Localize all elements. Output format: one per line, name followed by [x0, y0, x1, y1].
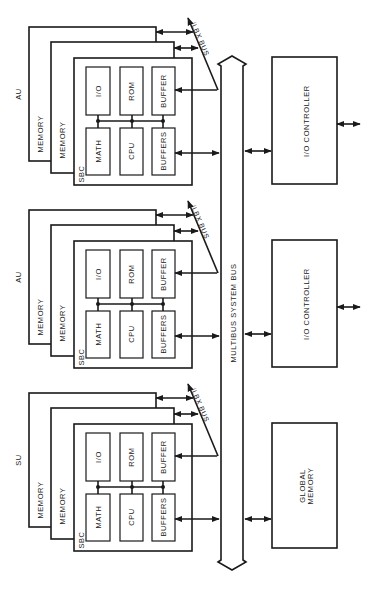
buffers-label: BUFFERS — [159, 131, 168, 170]
memory-label: MEMORY — [36, 298, 45, 335]
memory-label: MEMORY — [36, 481, 45, 518]
buffer-label: BUFFER — [159, 440, 168, 474]
buffer-label: BUFFER — [159, 74, 168, 108]
ilbx-bus-label: iLBX BUS — [190, 387, 210, 423]
buffer-label: BUFFER — [159, 257, 168, 291]
memory-label: MEMORY — [58, 121, 67, 158]
math-label: MATH — [94, 139, 103, 162]
rom-label: ROM — [127, 264, 136, 283]
ilbx-bus-label: iLBX BUS — [190, 21, 210, 57]
unit-au-1: AU MEMORY MEMORY SBC I/O ROM BUFFER MATH… — [14, 18, 360, 185]
buffers-label: BUFFERS — [159, 314, 168, 353]
memory-label: MEMORY — [36, 115, 45, 152]
multibus-block-diagram: MULTIBUS SYSTEM BUS AU MEMORY MEMORY SBC… — [0, 0, 367, 593]
multibus-system-bus: MULTIBUS SYSTEM BUS — [218, 56, 246, 570]
rom-label: ROM — [127, 81, 136, 100]
rom-label: ROM — [127, 447, 136, 466]
io-controller-label: I/O CONTROLLER — [302, 85, 311, 157]
ilbx-bus-label: iLBX BUS — [190, 204, 210, 240]
io-label: I/O — [94, 85, 103, 97]
sbc-label: SBC — [77, 348, 86, 365]
cpu-label: CPU — [127, 142, 136, 160]
memory-label: MEMORY — [58, 487, 67, 524]
io-label: I/O — [94, 451, 103, 463]
math-label: MATH — [94, 505, 103, 528]
unit-au-2: AU MEMORY MEMORY SBC I/O ROM BUFFER MATH… — [14, 201, 360, 368]
cpu-label: CPU — [127, 325, 136, 343]
io-controller-label: I/O CONTROLLER — [302, 268, 311, 340]
unit-label: AU — [14, 271, 23, 283]
unit-su: SU MEMORY MEMORY SBC I/O ROM BUFFER MATH… — [14, 384, 337, 551]
memory-label: MEMORY — [58, 304, 67, 341]
unit-label: SU — [14, 454, 23, 466]
unit-label: AU — [14, 88, 23, 100]
buffers-label: BUFFERS — [159, 497, 168, 536]
io-label: I/O — [94, 268, 103, 280]
bus-label: MULTIBUS SYSTEM BUS — [229, 263, 238, 362]
math-label: MATH — [94, 322, 103, 345]
sbc-label: SBC — [77, 531, 86, 548]
sbc-label: SBC — [77, 165, 86, 182]
cpu-label: CPU — [127, 508, 136, 526]
global-memory-label-line2: MEMORY — [306, 467, 315, 504]
